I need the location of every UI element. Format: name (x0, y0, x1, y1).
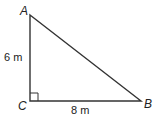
vertex-label-a: A (19, 4, 28, 18)
vertex-label-c: C (18, 99, 27, 113)
side-label-cb: 8 m (71, 104, 89, 116)
vertex-label-b: B (144, 97, 152, 111)
side-label-ac: 6 m (4, 51, 22, 63)
right-triangle-diagram: A C B 6 m 8 m (0, 0, 160, 120)
triangle-abc (30, 15, 141, 101)
right-angle-marker (30, 93, 38, 101)
